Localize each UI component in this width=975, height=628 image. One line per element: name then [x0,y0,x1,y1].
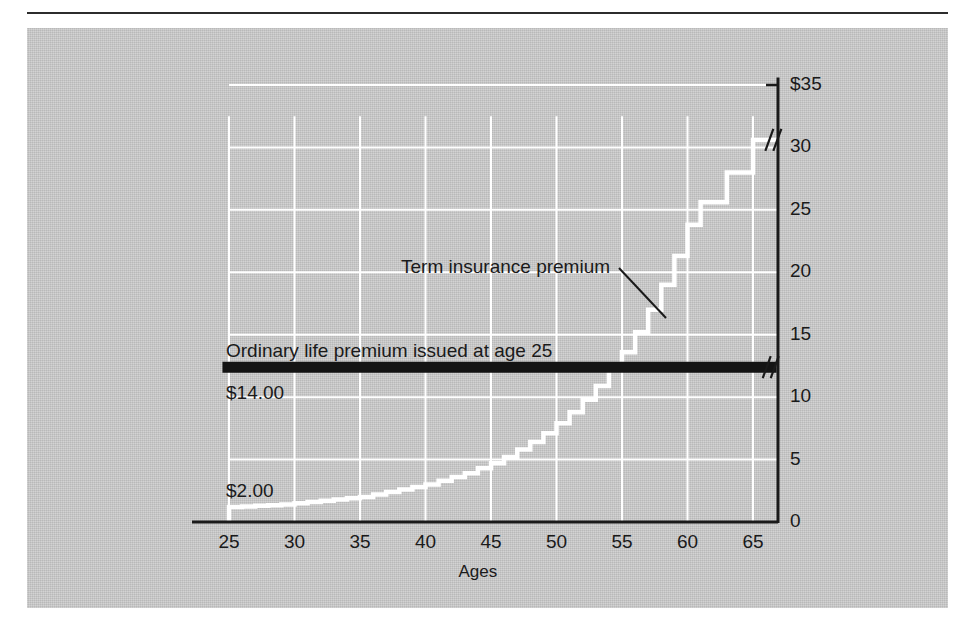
x-axis-tick-label: 65 [742,531,763,553]
x-axis-tick-label: 40 [415,531,436,553]
x-axis-tick-label: 25 [218,531,239,553]
figure-root: 253035404550556065 051015202530$35 Ages … [0,0,975,628]
x-axis-tick-label: 35 [349,531,370,553]
y-axis-tick-label: 25 [790,198,811,220]
y-axis-tick-label: 10 [790,385,811,407]
x-axis-tick-label: 50 [546,531,567,553]
y-axis-tick-label: 15 [790,323,811,345]
y-axis-tick-label: 30 [790,135,811,157]
x-axis-tick-label: 60 [677,531,698,553]
top-horizontal-rule [27,12,948,14]
y-axis-tick-label: 5 [790,448,801,470]
chart-panel-background [27,28,948,608]
x-axis-tick-label: 30 [284,531,305,553]
y-axis-tick-label: $35 [790,73,822,95]
x-axis-tick-label: 45 [480,531,501,553]
term-insurance-premium-label: Term insurance premium [401,256,610,278]
ordinary-life-premium-label: Ordinary life premium issued at age 25 [226,340,552,362]
ordinary-premium-value-label: $14.00 [226,382,284,404]
term-premium-start-value-label: $2.00 [226,480,274,502]
x-axis-tick-label: 55 [611,531,632,553]
y-axis-tick-label: 20 [790,260,811,282]
y-axis-tick-label: 0 [790,510,801,532]
x-axis-title: Ages [459,562,498,582]
